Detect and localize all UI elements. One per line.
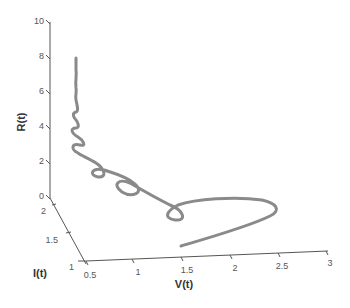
y-tick-1-5: 1.5 [45, 235, 58, 245]
x-tick-2: 2 [232, 263, 237, 273]
z-tick-10: 10 [34, 16, 44, 26]
x-axis-label: V(t) [175, 278, 194, 290]
z-axis: 10 8 6 4 2 0 R(t) [15, 16, 50, 201]
x-tick-1: 1 [135, 267, 140, 277]
x-axis: 0.5 1 1.5 2 2.5 3 V(t) [84, 251, 333, 290]
trajectory-curve [72, 58, 276, 246]
y-axis-label: I(t) [33, 267, 47, 279]
y-tick-1: 1 [69, 262, 74, 272]
y-axis: 2 1.5 1 I(t) [33, 198, 86, 279]
z-tick-8: 8 [39, 51, 44, 61]
chart-3d-plot: 10 8 6 4 2 0 R(t) 2 1.5 1 I(t) 0.5 1 1.5… [0, 0, 350, 308]
z-tick-2: 2 [39, 156, 44, 166]
y-tick-2: 2 [41, 206, 46, 216]
x-tick-0-5: 0.5 [84, 270, 97, 280]
z-axis-label: R(t) [15, 112, 27, 131]
z-tick-6: 6 [39, 86, 44, 96]
z-tick-4: 4 [39, 121, 44, 131]
x-tick-3: 3 [327, 258, 332, 268]
x-tick-1-5: 1.5 [181, 265, 194, 275]
z-tick-0: 0 [39, 191, 44, 201]
x-tick-2-5: 2.5 [276, 261, 289, 271]
